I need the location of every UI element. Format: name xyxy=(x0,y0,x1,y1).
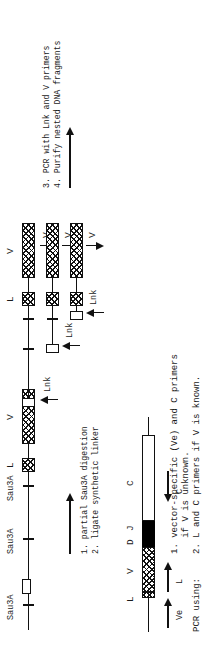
label-sau3a-1: Sau3A xyxy=(7,594,17,620)
segment-linker xyxy=(46,292,59,306)
ve-primer-arrow xyxy=(164,598,173,628)
segment-linker xyxy=(70,292,83,306)
step-arrow-1 xyxy=(66,492,75,554)
label-sau3a-2: Sau3A xyxy=(7,528,17,554)
sau3a-tick xyxy=(23,318,34,320)
segment-joining xyxy=(142,521,155,533)
lnk-primer-arrow-1 xyxy=(40,395,58,404)
legend-linker-box xyxy=(22,579,31,594)
label-segment-diversity: D xyxy=(126,539,136,545)
rotated-figure-layer: Sau3A Sau3A Sau3A L V 1. partial Sau3A d… xyxy=(0,0,208,650)
panel-top: Sau3A Sau3A Sau3A L V 1. partial Sau3A d… xyxy=(0,0,112,650)
segment-lnk xyxy=(70,311,83,320)
segment-variable xyxy=(142,547,155,592)
sau3a-tick-2 xyxy=(23,538,34,540)
label-segment-joining: J xyxy=(126,525,136,531)
l-primer-arrow xyxy=(164,562,173,592)
sau3a-tick-1 xyxy=(23,604,34,606)
step-1-text: 1. partial Sau3A digestion xyxy=(80,426,90,554)
segment-variable xyxy=(22,223,35,278)
sau3a-tick xyxy=(23,348,34,350)
sau3a-tick-3 xyxy=(23,485,34,487)
label-sau3a-3: Sau3A xyxy=(7,475,17,501)
label-v-3: V xyxy=(88,232,98,238)
label-segment-constant: C xyxy=(126,480,136,486)
caption-lead: PCR using: xyxy=(192,578,203,632)
lnk-primer-arrow-3 xyxy=(86,308,104,317)
segment-lnk xyxy=(22,398,35,407)
segment-linker xyxy=(142,592,155,598)
caption-line-2: if V is unknown. xyxy=(181,451,192,554)
step-2-text: 2. ligate synthetic linker xyxy=(91,426,101,554)
figure-canvas: Sau3A Sau3A Sau3A L V 1. partial Sau3A d… xyxy=(0,0,208,650)
lnk-primer-arrow-2 xyxy=(62,341,80,350)
label-segment-variable: V xyxy=(6,414,16,420)
panel-bottom: L V D J C Ve L xyxy=(112,0,208,650)
step-4-text: 4. Purify nested DNA fragments xyxy=(53,41,63,188)
sau3a-tick xyxy=(47,318,58,320)
v-primer-arrow-3 xyxy=(86,241,104,250)
segment-variable xyxy=(46,223,59,278)
segment-linker xyxy=(22,458,35,472)
step-arrow-2 xyxy=(66,126,75,188)
label-lnk-1: Lnk xyxy=(44,377,54,392)
label-segment-variable: V xyxy=(126,568,136,574)
label-lnk-2: Lnk xyxy=(66,323,76,338)
label-l-1: L xyxy=(6,296,16,302)
step-3-text: 3. PCR with Lnk and V primers xyxy=(42,46,52,189)
segment-lnk xyxy=(46,344,59,353)
segment-constant xyxy=(142,435,155,521)
label-vseg-1: V xyxy=(6,248,16,254)
label-segment-linker: L xyxy=(126,596,136,602)
segment-variable xyxy=(70,223,83,278)
segment-diversity xyxy=(142,533,155,547)
label-lnk-3: Lnk xyxy=(90,290,100,305)
label-primer-ve: Ve xyxy=(176,610,186,620)
segment-linker xyxy=(22,292,35,306)
label-primer-l: L xyxy=(176,579,186,584)
label-segment-linker: L xyxy=(6,462,16,468)
caption-line-1: 1. vector-specific (Ve) and C primers xyxy=(170,354,181,554)
caption-line-3: 2. L and C primers if V is known. xyxy=(192,376,203,554)
